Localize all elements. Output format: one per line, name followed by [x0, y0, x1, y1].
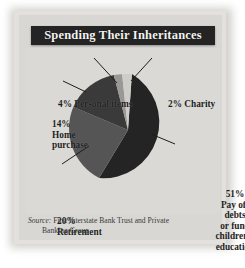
source-text-line2: Banking Group [28, 226, 218, 236]
source-text-line1: First Interstate Bank Trust and Private [51, 216, 169, 225]
chart-source-note: Source: First Interstate Bank Trust and … [28, 216, 218, 236]
page-title: Spending Their Inheritances [44, 28, 202, 43]
pie-label-home-purchase: 14% Home purchase [52, 119, 88, 151]
source-label: Source: [28, 216, 51, 225]
pie-label-personal-items: 4% Personal items [58, 99, 132, 110]
chart-title-bar: Spending Their Inheritances [31, 26, 215, 45]
plot-area: 4% Personal items 2% Charity 14% Home pu… [25, 48, 220, 214]
leader-line-home-purchase [63, 81, 86, 92]
pie-label-charity: 2% Charity [168, 99, 215, 110]
leader-line-charity [131, 58, 152, 81]
figure-container: Spending Their Inheritances [0, 0, 245, 268]
